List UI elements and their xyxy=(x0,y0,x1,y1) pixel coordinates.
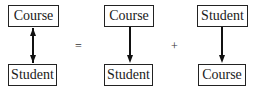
double-arrow-icon xyxy=(30,28,36,63)
down-arrow-icon xyxy=(127,27,133,63)
equals-sign: = xyxy=(75,40,82,52)
entity-box-course: Course xyxy=(8,5,59,27)
entity-box-student: Student xyxy=(197,5,248,27)
entity-box-student: Student xyxy=(8,64,57,86)
entity-box-course: Course xyxy=(198,64,246,86)
down-arrow-icon xyxy=(219,27,225,63)
entity-box-course: Course xyxy=(104,5,154,27)
plus-sign: + xyxy=(171,40,178,52)
entity-box-student: Student xyxy=(104,64,153,86)
